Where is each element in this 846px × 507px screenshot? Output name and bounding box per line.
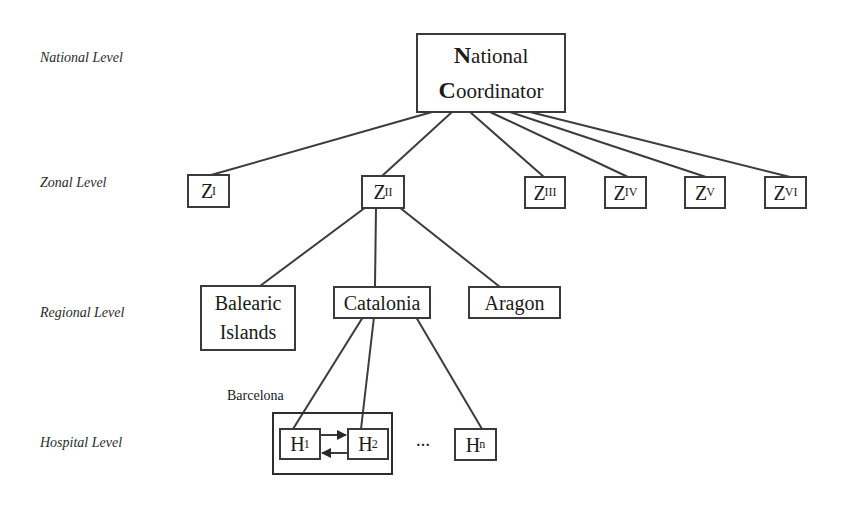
level-label-national: National Level (40, 50, 123, 66)
level-label-hospital: Hospital Level (40, 435, 122, 451)
edge-z2-catalonia (375, 207, 376, 287)
hospital-node-n: Hn (454, 428, 497, 461)
edge-nc-z3 (470, 112, 544, 177)
organizational-hierarchy-diagram: National Level Zonal Level Regional Leve… (0, 0, 846, 507)
zone-node-2: ZII (361, 175, 405, 209)
edge-nc-z6 (530, 112, 790, 177)
edge-nc-z2 (382, 112, 452, 176)
zone-node-1: ZI (187, 174, 230, 208)
zone-node-3: ZIII (524, 176, 566, 209)
edge-z2-aragon (399, 207, 500, 287)
hospital-node-2: H2 (347, 428, 389, 460)
zone-node-4: ZIV (604, 176, 647, 209)
level-label-zonal: Zonal Level (40, 175, 107, 191)
national-coordinator-node: National Coordinator (416, 33, 566, 113)
edge-catalonia-hn (416, 317, 482, 429)
level-label-regional: Regional Level (40, 305, 124, 321)
hospital-group-label: Barcelona (227, 388, 284, 404)
national-coordinator-line1: National (454, 38, 529, 73)
region-node-balearic-islands: Balearic Islands (200, 285, 296, 351)
zone-node-6: ZVI (764, 176, 807, 209)
national-coordinator-line2: Coordinator (439, 73, 544, 108)
region-node-aragon: Aragon (468, 286, 561, 319)
more-hospitals-ellipsis: … (416, 434, 429, 450)
edge-nc-z1 (211, 112, 432, 175)
zone-node-5: ZV (684, 176, 726, 209)
edge-z2-balearic (260, 207, 366, 286)
hospital-node-1: H1 (279, 428, 321, 460)
region-node-catalonia: Catalonia (333, 286, 431, 319)
